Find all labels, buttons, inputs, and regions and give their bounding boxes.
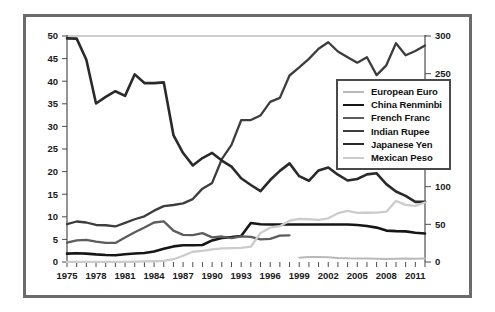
y-axis-label-right: 300 (435, 30, 451, 41)
x-axis-label: 1999 (289, 270, 310, 281)
chart-frame: 0510152025303540455005010015020025030019… (23, 14, 472, 298)
x-axis-label: 2005 (347, 270, 369, 281)
legend-item[interactable]: French Franc (343, 111, 442, 124)
legend-label: European Euro (371, 86, 438, 97)
x-axis-label: 1975 (56, 270, 78, 281)
y-axis-label-left: 40 (47, 76, 58, 87)
y-axis-label-left: 15 (47, 189, 58, 200)
x-axis-label: 2011 (405, 270, 426, 281)
y-axis-label-left: 0 (53, 256, 58, 267)
series-line-european-euro (299, 257, 425, 259)
legend-swatch-icon (343, 157, 364, 159)
y-axis-label-right: 250 (435, 68, 451, 79)
legend-item[interactable]: Indian Rupee (343, 125, 442, 138)
x-axis-label: 1978 (85, 270, 106, 281)
y-axis-label-left: 35 (47, 98, 58, 109)
y-axis-label-right: 100 (435, 181, 451, 192)
legend-swatch-icon (343, 91, 364, 93)
legend-label: China Renminbi (371, 99, 442, 110)
legend-swatch-icon (343, 104, 364, 106)
x-axis-label: 1981 (114, 270, 136, 281)
chart-legend: European EuroChina RenminbiFrench FrancI… (336, 79, 451, 170)
y-axis-label-left: 5 (53, 234, 59, 245)
screenshot-canvas: 0510152025303540455005010015020025030019… (0, 0, 495, 312)
legend-item[interactable]: Japanese Yen (343, 138, 442, 151)
legend-label: Mexican Peso (371, 152, 433, 163)
x-axis-label: 2008 (376, 270, 397, 281)
y-axis-label-left: 30 (47, 121, 58, 132)
y-axis-label-left: 10 (47, 211, 58, 222)
x-axis-label: 1984 (144, 270, 166, 281)
legend-label: Indian Rupee (371, 126, 429, 137)
legend-item[interactable]: European Euro (343, 85, 442, 98)
legend-label: Japanese Yen (371, 139, 432, 150)
x-axis-label: 2002 (318, 270, 339, 281)
y-axis-label-left: 45 (47, 53, 58, 64)
y-axis-label-right: 50 (435, 219, 446, 230)
legend-item[interactable]: Mexican Peso (343, 151, 442, 164)
y-axis-label-left: 50 (47, 30, 58, 41)
x-axis-label: 1993 (231, 270, 252, 281)
y-axis-label-right: 0 (435, 256, 440, 267)
legend-item[interactable]: China Renminbi (343, 98, 442, 111)
x-axis-label: 1990 (202, 270, 223, 281)
x-axis-label: 1996 (260, 270, 281, 281)
legend-swatch-icon (343, 117, 364, 119)
y-axis-label-left: 20 (47, 166, 58, 177)
legend-swatch-icon (343, 143, 364, 145)
y-axis-label-left: 25 (47, 143, 58, 154)
legend-swatch-icon (343, 130, 364, 132)
x-axis-label: 1987 (173, 270, 194, 281)
legend-label: French Franc (371, 112, 430, 123)
